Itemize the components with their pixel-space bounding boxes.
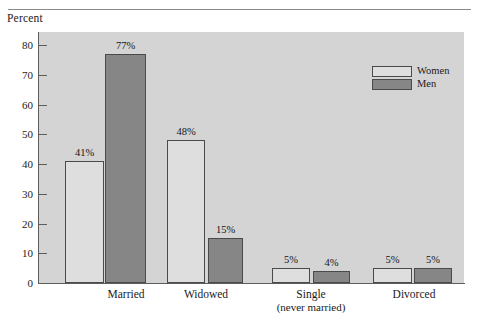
y-tick-label-20: 20: [5, 218, 33, 230]
bar-label-women-3: 5%: [386, 254, 400, 265]
category-label-2: Single(never married): [277, 288, 346, 314]
women-swatch: [372, 66, 412, 77]
legend-item-men: Men: [372, 79, 462, 91]
y-tick-label-40: 40: [5, 158, 33, 170]
bar-men-2: [313, 271, 350, 283]
y-tick-70: [39, 75, 47, 76]
y-tick-80: [39, 45, 47, 46]
legend-item-women: Women: [372, 66, 462, 78]
y-tick-label-60: 60: [5, 99, 33, 111]
y-tick-20: [39, 224, 47, 225]
y-tick-50: [39, 134, 47, 135]
bar-label-men-2: 4%: [325, 257, 339, 268]
bar-women-1: [167, 140, 205, 283]
men-swatch: [372, 79, 412, 90]
y-tick-60: [39, 105, 47, 106]
bar-men-0: [105, 54, 146, 283]
bar-women-2: [272, 268, 310, 283]
legend-label-women: Women: [417, 65, 449, 76]
bar-label-men-0: 77%: [116, 40, 135, 51]
category-label-3: Divorced: [393, 288, 436, 301]
category-label-line2: (never married): [277, 301, 346, 314]
category-label-line1: Widowed: [184, 288, 228, 300]
category-label-1: Widowed: [184, 288, 228, 301]
bar-label-women-1: 48%: [176, 126, 195, 137]
y-tick-label-0: 0: [5, 277, 33, 289]
y-axis-line: [38, 32, 39, 284]
top-divider: [8, 9, 471, 10]
bar-women-3: [373, 268, 412, 283]
chart-legend: WomenMen: [372, 66, 462, 92]
category-label-line1: Divorced: [393, 288, 436, 300]
category-label-line1: Married: [107, 288, 144, 300]
bar-men-3: [414, 268, 452, 283]
y-tick-label-80: 80: [5, 39, 33, 51]
y-tick-40: [39, 164, 47, 165]
legend-label-men: Men: [417, 78, 436, 89]
bar-label-men-1: 15%: [216, 224, 235, 235]
bar-label-women-0: 41%: [75, 147, 94, 158]
bar-label-men-3: 5%: [426, 254, 440, 265]
category-label-line1: Single: [296, 288, 325, 300]
bar-women-0: [65, 161, 104, 283]
y-tick-30: [39, 194, 47, 195]
y-tick-label-30: 30: [5, 188, 33, 200]
y-tick-label-10: 10: [5, 247, 33, 259]
bar-chart-figure: Percent 01020304050607080 41%48%5%5%77%1…: [0, 0, 480, 315]
y-tick-label-50: 50: [5, 128, 33, 140]
y-axis-tick-labels: 01020304050607080: [0, 0, 33, 315]
y-tick-10: [39, 253, 47, 254]
bar-men-1: [208, 238, 243, 283]
bar-label-women-2: 5%: [284, 254, 298, 265]
x-axis-line: [38, 283, 465, 284]
y-tick-0: [39, 283, 47, 284]
category-label-0: Married: [107, 288, 144, 301]
y-tick-label-70: 70: [5, 69, 33, 81]
